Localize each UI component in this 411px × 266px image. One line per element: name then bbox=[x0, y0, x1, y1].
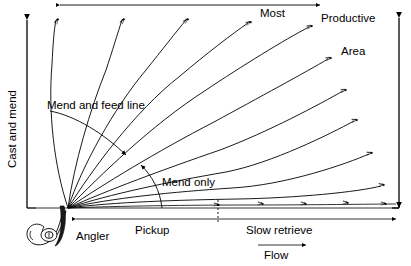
diagram-canvas: Cast and mend bbox=[0, 0, 411, 266]
y-axis-label: Cast and mend bbox=[6, 90, 18, 168]
label-mend-only: Mend only bbox=[162, 176, 215, 188]
label-slow-retrieve: Slow retrieve bbox=[246, 224, 312, 236]
mend-and-feed-arc bbox=[50, 111, 126, 155]
cast-curve-1 bbox=[51, 20, 68, 208]
cast-curve-11 bbox=[68, 204, 396, 208]
label-pickup: Pickup bbox=[135, 224, 170, 236]
cast-curve-4 bbox=[68, 23, 248, 208]
label-productive: Productive bbox=[321, 12, 375, 24]
label-angler: Angler bbox=[76, 230, 109, 242]
label-flow: Flow bbox=[264, 249, 289, 261]
left-axis bbox=[27, 20, 36, 208]
right-axis bbox=[392, 18, 399, 208]
cast-curve-9 bbox=[68, 154, 369, 208]
label-most: Most bbox=[260, 7, 286, 19]
label-mend-and-feed-line: Mend and feed line bbox=[47, 99, 145, 111]
fly-fishing-diagram: Cast and mend bbox=[0, 0, 411, 266]
label-area: Area bbox=[341, 45, 366, 57]
fly-end-markers bbox=[54, 17, 387, 206]
angler-figure-icon bbox=[27, 206, 66, 246]
